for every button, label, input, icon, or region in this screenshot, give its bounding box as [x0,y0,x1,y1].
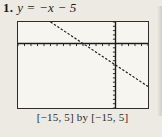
problem-statement: 1.y = −x − 5 [3,0,77,16]
scan-artifact [157,6,162,116]
problem-equation: y = −x − 5 [17,0,76,15]
function-line [51,22,149,87]
viewing-window-caption: [−15, 5] by [−15, 5] [16,111,149,123]
problem-number: 1. [3,0,13,15]
calculator-graph-window [17,21,149,109]
graph-svg [18,22,148,108]
